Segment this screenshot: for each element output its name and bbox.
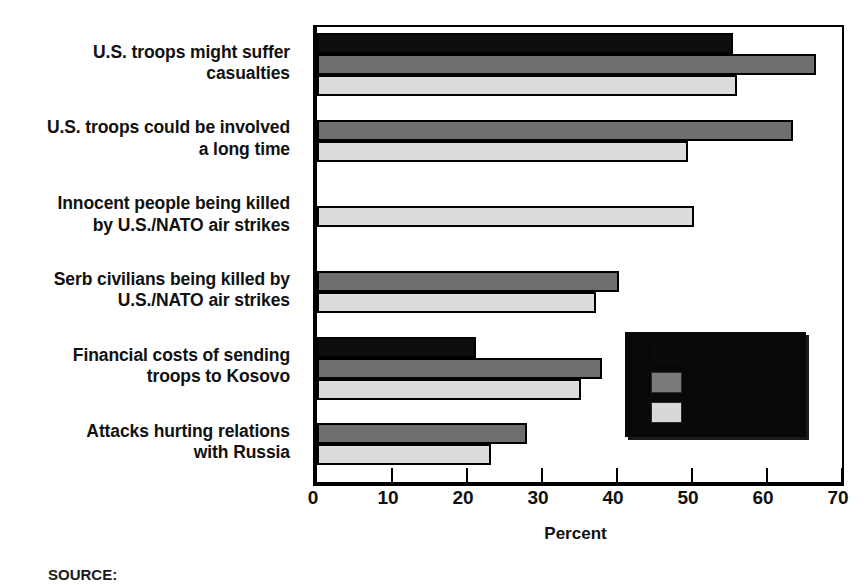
legend bbox=[625, 332, 806, 437]
x-axis-title: Percent bbox=[313, 524, 838, 544]
bar-g3-s1 bbox=[317, 271, 619, 292]
bar-g0-s1 bbox=[317, 54, 816, 75]
category-label-0: U.S. troops might suffercasualties bbox=[0, 42, 290, 85]
x-tick-30 bbox=[541, 468, 543, 482]
bar-g0-s2 bbox=[317, 75, 737, 96]
x-tick-label-20: 20 bbox=[443, 487, 483, 509]
category-label-4: Financial costs of sendingtroops to Koso… bbox=[0, 345, 290, 388]
category-label-5-line-1: with Russia bbox=[0, 442, 290, 463]
category-label-4-line-0: Financial costs of sending bbox=[0, 345, 290, 366]
bar-g4-s1 bbox=[317, 358, 602, 379]
bar-g4-s0 bbox=[317, 337, 476, 358]
bar-g5-s2 bbox=[317, 444, 491, 465]
x-tick-70 bbox=[841, 468, 843, 482]
chart-figure: U.S. troops might suffercasualtiesU.S. t… bbox=[0, 0, 867, 585]
category-label-2-line-1: by U.S./NATO air strikes bbox=[0, 215, 290, 236]
x-tick-label-30: 30 bbox=[518, 487, 558, 509]
legend-swatch-light-gray bbox=[651, 402, 682, 423]
legend-item-1 bbox=[651, 372, 796, 394]
category-label-5-line-0: Attacks hurting relations bbox=[0, 421, 290, 442]
x-tick-label-70: 70 bbox=[818, 487, 858, 509]
bar-g3-s2 bbox=[317, 292, 596, 313]
category-label-0-line-0: U.S. troops might suffer bbox=[0, 42, 290, 63]
legend-item-0 bbox=[651, 342, 796, 364]
x-tick-60 bbox=[766, 468, 768, 482]
legend-swatch-dark-gray bbox=[651, 372, 682, 393]
category-label-0-line-1: casualties bbox=[0, 63, 290, 84]
category-label-1: U.S. troops could be involveda long time bbox=[0, 117, 290, 160]
category-label-2-line-0: Innocent people being killed bbox=[0, 193, 290, 214]
x-tick-label-60: 60 bbox=[743, 487, 783, 509]
x-tick-label-50: 50 bbox=[668, 487, 708, 509]
bar-g5-s1 bbox=[317, 423, 527, 444]
category-label-4-line-1: troops to Kosovo bbox=[0, 366, 290, 387]
category-axis-labels: U.S. troops might suffercasualtiesU.S. t… bbox=[0, 25, 300, 455]
bar-g4-s2 bbox=[317, 379, 581, 400]
category-label-1-line-1: a long time bbox=[0, 139, 290, 160]
x-tick-10 bbox=[391, 468, 393, 482]
category-label-3-line-0: Serb civilians being killed by bbox=[0, 269, 290, 290]
bar-g2-s2 bbox=[317, 206, 694, 227]
category-label-5: Attacks hurting relationswith Russia bbox=[0, 421, 290, 464]
bar-g1-s2 bbox=[317, 141, 688, 162]
category-label-3: Serb civilians being killed byU.S./NATO … bbox=[0, 269, 290, 312]
x-tick-label-10: 10 bbox=[368, 487, 408, 509]
legend-swatch-black bbox=[651, 342, 682, 363]
x-tick-label-40: 40 bbox=[593, 487, 633, 509]
legend-item-2 bbox=[651, 402, 796, 424]
category-label-3-line-1: U.S./NATO air strikes bbox=[0, 290, 290, 311]
x-tick-label-0: 0 bbox=[293, 487, 333, 509]
bar-g0-s0 bbox=[317, 33, 733, 54]
source-note: SOURCE: bbox=[48, 566, 117, 585]
category-label-2: Innocent people being killedby U.S./NATO… bbox=[0, 193, 290, 236]
x-tick-40 bbox=[616, 468, 618, 482]
bar-g1-s1 bbox=[317, 120, 793, 141]
category-label-1-line-0: U.S. troops could be involved bbox=[0, 117, 290, 138]
x-tick-50 bbox=[691, 468, 693, 482]
x-tick-20 bbox=[466, 468, 468, 482]
